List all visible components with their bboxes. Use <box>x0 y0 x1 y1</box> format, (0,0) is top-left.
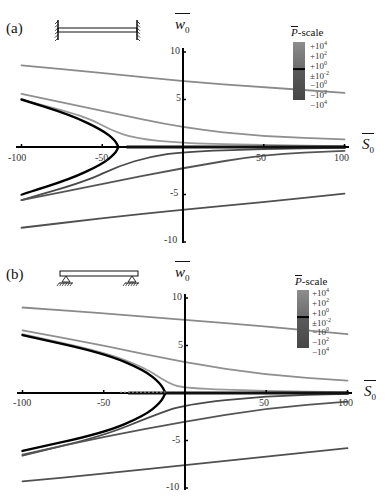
x-tick-label: -50 <box>95 152 108 163</box>
chart-plot-b <box>0 250 388 501</box>
panel-label-b: (b) <box>6 266 24 283</box>
panel-label-a: (a) <box>6 20 23 37</box>
x-axis-title-a: S0 <box>362 136 374 155</box>
y-axis-title-a: w0 <box>175 16 190 35</box>
y-tick-label: -10 <box>166 481 179 492</box>
x-tick-label: -100 <box>13 397 31 408</box>
colorbar-tick-label: −104 <box>312 346 329 357</box>
colorbar <box>297 290 309 348</box>
x-tick-label: -100 <box>8 152 26 163</box>
clamped-beam-icon <box>55 20 140 41</box>
y-tick-label: 5 <box>178 339 183 350</box>
y-tick-label: 10 <box>172 291 182 302</box>
x-tick-label: -50 <box>97 397 110 408</box>
curve-critical-lower <box>23 393 166 451</box>
y-tick-label: -10 <box>164 234 177 245</box>
panel-a: (a) w0 S0 -100 -50 50 100 10 5 -5 -10 P-… <box>0 0 388 250</box>
y-tick-label: -5 <box>172 434 180 445</box>
y-axis-title-b: w0 <box>175 264 190 283</box>
simply-supported-beam-icon <box>57 271 139 286</box>
x-tick-label: 100 <box>338 397 353 408</box>
x-tick-label: 100 <box>334 152 349 163</box>
colorbar-title-b: P-scale <box>295 275 327 287</box>
y-tick-label: 5 <box>176 92 181 103</box>
colorbar-title-a: P-scale <box>291 26 323 38</box>
x-tick-label: 50 <box>256 152 266 163</box>
x-axis-title-b: S0 <box>364 383 376 402</box>
chart-plot-a <box>0 0 388 250</box>
x-tick-label: 50 <box>259 397 269 408</box>
curve-critical-upper <box>22 100 119 148</box>
colorbar-tick-label: −104 <box>310 99 327 110</box>
panel-b: (b) w0 S0 -100 -50 50 100 10 5 -5 -10 P-… <box>0 250 388 501</box>
colorbar <box>293 42 305 100</box>
y-tick-label: 10 <box>170 45 180 56</box>
y-tick-label: -5 <box>170 187 178 198</box>
